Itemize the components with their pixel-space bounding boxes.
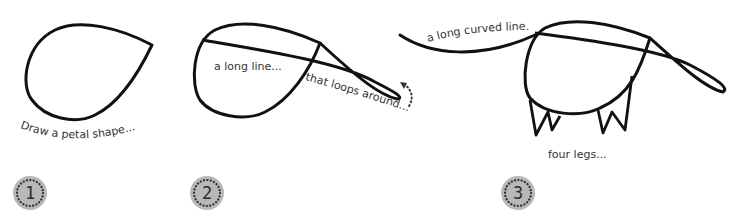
- step-2: a long line... that loops around... 2: [190, 24, 412, 210]
- arrowhead-icon: [400, 82, 407, 89]
- step-1: Draw a petal shape... 1: [13, 25, 152, 210]
- step-number-3: 3: [513, 183, 523, 203]
- step-3-label-b: four legs...: [548, 148, 607, 161]
- step-badge-2: 2: [190, 176, 224, 210]
- step-2-label-a: a long line...: [214, 60, 282, 73]
- step-number-1: 1: [25, 183, 35, 203]
- front-legs: [530, 100, 560, 135]
- step-number-2: 2: [202, 183, 212, 203]
- step-3-label-a: a long curved line...: [0, 0, 529, 45]
- step-badge-3: 3: [501, 176, 535, 210]
- petal-shape: [26, 25, 152, 120]
- step-badge-1: 1: [13, 176, 47, 210]
- curved-tail-line: [400, 35, 535, 52]
- step-1-label: Draw a petal shape...: [19, 119, 136, 142]
- back-legs: [598, 76, 632, 133]
- anteater-drawing-tutorial: Draw a petal shape... 1 a long line... t…: [0, 0, 733, 217]
